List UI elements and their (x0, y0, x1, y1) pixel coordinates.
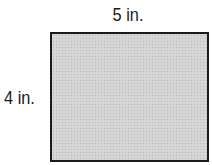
width-label: 5 in. (113, 5, 144, 24)
shaded-rectangle (50, 32, 209, 162)
height-label: 4 in. (4, 88, 35, 107)
